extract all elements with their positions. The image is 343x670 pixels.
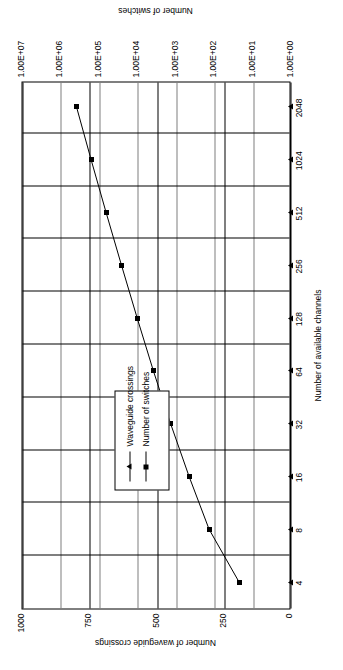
datapoint-crossings-8 — [288, 526, 293, 532]
legend-label-number-of-switches: Number of switches — [140, 371, 150, 446]
y2-tick-1e4: 1.00E+04 — [132, 40, 141, 81]
datapoint-switches-16 — [186, 474, 191, 479]
gridline-y-500 — [157, 82, 158, 608]
legend-label-waveguide-crossings: Waveguide crossings — [124, 366, 134, 446]
gridline-y2-1e6 — [60, 82, 61, 608]
datapoint-switches-512 — [103, 210, 108, 215]
x-tick-2048: 2048 — [294, 98, 303, 117]
datapoint-switches-1024 — [88, 157, 93, 162]
gridline-y2-1e3 — [176, 82, 177, 608]
square-marker-icon — [140, 451, 150, 481]
gridline-x-128 — [22, 290, 289, 291]
datapoint-switches-64 — [150, 368, 155, 373]
datapoint-switches-2048 — [74, 104, 79, 109]
gridline-x-4 — [22, 554, 289, 555]
x-tick-16: 16 — [294, 472, 303, 481]
x-tick-64: 64 — [294, 367, 303, 376]
y2-tick-1e3: 1.00E+03 — [170, 40, 179, 81]
x-tick-512: 512 — [294, 206, 303, 220]
gridline-x-8 — [22, 501, 289, 502]
chart-legend: Waveguide crossings Number of switches — [114, 390, 169, 490]
gridline-y2-1e5 — [99, 82, 100, 608]
datapoint-crossings-32 — [288, 420, 293, 426]
y-tick-0: 0 — [285, 609, 294, 618]
gridline-x-1024 — [22, 132, 289, 133]
x-tick-4: 4 — [294, 580, 303, 585]
y-tick-500: 500 — [151, 609, 160, 627]
legend-entry-waveguide-crossings: Waveguide crossings — [121, 399, 137, 481]
y2-tick-1e7: 1.00E+07 — [17, 40, 26, 81]
y-tick-1000: 1000 — [17, 609, 26, 632]
x-axis-title: Number of available channels — [312, 81, 322, 609]
datapoint-crossings-1024 — [288, 156, 293, 162]
datapoint-crossings-64 — [288, 367, 293, 373]
datapoint-switches-8 — [206, 526, 211, 531]
x-tick-1024: 1024 — [294, 151, 303, 170]
chart-root: Waveguide crossings Number of switches 1… — [0, 0, 343, 670]
y2-tick-1e1: 1.00E+01 — [247, 40, 256, 81]
y2-tick-1e2: 1.00E+02 — [209, 40, 218, 81]
gridline-y-250 — [224, 82, 225, 608]
datapoint-crossings-128 — [288, 315, 293, 321]
x-tick-8: 8 — [294, 527, 303, 532]
gridline-y2-1e1 — [253, 82, 254, 608]
datapoint-switches-256 — [119, 262, 124, 267]
gridline-x-64 — [22, 343, 289, 344]
y-tick-750: 750 — [84, 609, 93, 627]
x-tick-128: 128 — [294, 312, 303, 326]
datapoint-crossings-512 — [288, 209, 293, 215]
y-tick-250: 250 — [218, 609, 227, 627]
y2-tick-1e0: 1.00E+00 — [286, 40, 295, 81]
plot-area: Waveguide crossings Number of switches — [21, 81, 290, 609]
y2-tick-1e5: 1.00E+05 — [93, 40, 102, 81]
datapoint-switches-4 — [236, 579, 241, 584]
datapoint-switches-128 — [134, 315, 139, 320]
triangle-marker-icon — [124, 451, 134, 481]
x-tick-256: 256 — [294, 259, 303, 273]
datapoint-crossings-2048 — [288, 103, 293, 109]
legend-entry-number-of-switches: Number of switches — [137, 399, 153, 481]
primary-axis-title: Number of waveguide crossings — [75, 637, 235, 647]
gridline-y2-1e4 — [137, 82, 138, 608]
chart-figure: Waveguide crossings Number of switches 1… — [0, 0, 343, 670]
datapoint-crossings-4 — [288, 579, 293, 585]
gridline-y2-1e2 — [214, 82, 215, 608]
x-tick-32: 32 — [294, 419, 303, 428]
datapoint-crossings-256 — [288, 262, 293, 268]
gridline-y-1000 — [22, 82, 23, 608]
y2-tick-1e6: 1.00E+06 — [55, 40, 64, 81]
gridline-x-256 — [22, 237, 289, 238]
secondary-axis-title: Number of switches — [75, 5, 235, 15]
gridline-x-512 — [22, 185, 289, 186]
datapoint-crossings-16 — [288, 473, 293, 479]
